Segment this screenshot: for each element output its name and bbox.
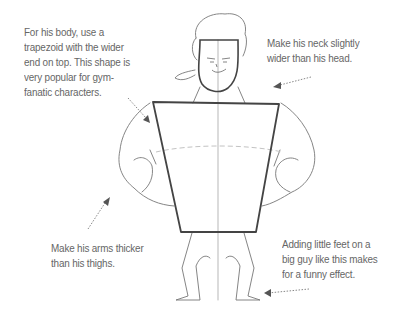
caption-line: Adding little feet on a (282, 237, 378, 252)
caption-line: Make his arms thicker (51, 241, 144, 256)
caption-line: For his body, use a (24, 25, 130, 40)
left-leg (176, 233, 210, 300)
caption-line: very popular for gym- (24, 70, 130, 85)
caption-line: fanatic characters. (24, 85, 130, 100)
bandana-tail (175, 70, 195, 80)
right-leg (226, 233, 260, 300)
caption-neck: Make his neck slightly wider than his he… (267, 36, 359, 66)
caption-line: for a funny effect. (282, 267, 378, 282)
arrow-arms (88, 203, 105, 229)
caption-line: Make his neck slightly (267, 36, 359, 51)
arrow-neck (280, 77, 311, 85)
caption-arms: Make his arms thicker than his thighs. (51, 241, 144, 271)
head-shape (199, 40, 238, 91)
caption-body-shape: For his body, use a trapezoid with the w… (24, 25, 130, 100)
caption-line: wider than his head. (267, 51, 359, 66)
caption-line: end on top. This shape is (24, 55, 130, 70)
caption-feet: Adding little feet on a big guy like thi… (282, 237, 378, 282)
caption-line: big guy like this makes (282, 252, 378, 267)
arrow-feet (268, 289, 309, 293)
caption-line: trapezoid with the wider (24, 40, 130, 55)
torso-trapezoid (153, 102, 279, 232)
caption-line: than his thighs. (51, 256, 144, 271)
